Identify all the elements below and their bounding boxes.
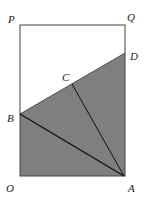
label-D: D — [129, 50, 138, 62]
label-Q: Q — [127, 11, 135, 23]
label-P: P — [7, 13, 15, 25]
label-C: C — [62, 71, 70, 83]
shaded-region — [20, 53, 125, 176]
label-B: B — [7, 112, 14, 124]
geometry-diagram: P Q D C B O A — [0, 0, 145, 200]
label-O: O — [6, 182, 14, 194]
label-A: A — [127, 182, 135, 194]
